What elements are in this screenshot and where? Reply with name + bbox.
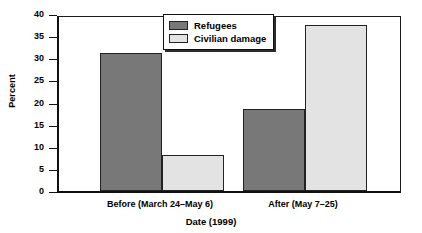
legend-swatch-civilian-damage [169,34,188,43]
y-axis-tick-label: 35 [4,31,44,41]
y-axis-tick-mark [49,59,57,60]
bar [243,109,305,191]
y-axis-tick-label: 15 [4,120,44,130]
y-axis-tick-label: 0 [4,186,44,196]
y-axis-title: Percent [7,56,17,126]
bar-chart: Percent 0510152025303540 Refugees Civili… [0,0,422,233]
y-axis-tick-label: 10 [4,142,44,152]
y-axis-tick-label: 5 [4,164,44,174]
y-axis-tick-label: 30 [4,53,44,63]
legend-item-civilian-damage: Civilian damage [169,32,266,45]
bar [305,25,367,191]
y-axis-tick-label: 25 [4,75,44,85]
bar [100,53,162,191]
y-axis-tick-mark [49,192,57,193]
y-axis-tick-mark [49,126,57,127]
y-axis-tick-mark [49,15,57,16]
y-axis-tick-mark [49,81,57,82]
x-axis-title: Date (1999) [0,216,422,227]
y-axis-tick-label: 20 [4,98,44,108]
chart-legend: Refugees Civilian damage [163,14,274,50]
bar [162,155,224,191]
x-axis-label-before: Before (March 24–May 6) [107,199,213,209]
legend-item-refugees: Refugees [169,19,266,32]
legend-label-civilian-damage: Civilian damage [194,33,266,44]
legend-label-refugees: Refugees [194,20,237,31]
y-axis-tick-mark [49,170,57,171]
y-axis-tick-mark [49,104,57,105]
y-axis-tick-mark [49,148,57,149]
x-axis-label-after: After (May 7–25) [268,199,338,209]
y-axis-tick-mark [49,37,57,38]
y-axis-tick-label: 40 [4,9,44,19]
legend-swatch-refugees [169,21,188,30]
